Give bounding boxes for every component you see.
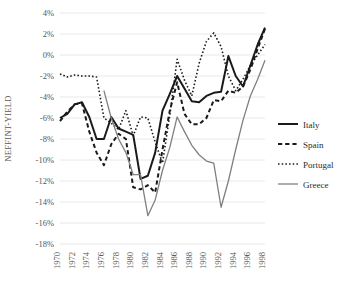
legend: ItalySpainPortugalGreece (278, 120, 334, 190)
y-tick-label: 4% (43, 8, 54, 18)
x-tick-label: 1998 (257, 252, 267, 269)
legend-label-portugal: Portugal (303, 160, 334, 170)
y-tick-label: -2% (40, 71, 54, 81)
y-tick-label: -6% (40, 113, 54, 123)
x-tick-label: 1988 (184, 252, 194, 269)
x-tick-label: 1984 (155, 251, 165, 269)
x-tick-label: 1970 (52, 252, 62, 269)
legend-label-spain: Spain (303, 140, 324, 150)
series-group (60, 28, 265, 216)
x-tick-label: 1974 (81, 251, 91, 269)
y-tick-label: -16% (36, 218, 54, 228)
y-tick-label: -18% (36, 239, 54, 249)
x-tick-label: 1980 (125, 252, 135, 269)
series-line-portugal (60, 33, 265, 163)
x-tick-label: 1978 (111, 252, 121, 269)
y-axis-ticks: 4%2%0%-2%-4%-6%-8%-10%-12%-14%-16%-18% (36, 8, 54, 249)
x-tick-label: 1990 (198, 252, 208, 269)
y-tick-label: -10% (36, 155, 54, 165)
legend-label-greece: Greece (303, 180, 328, 190)
y-tick-label: -14% (36, 197, 54, 207)
y-tick-label: -12% (36, 176, 54, 186)
y-tick-label: 2% (43, 29, 54, 39)
x-tick-label: 1972 (67, 252, 77, 269)
line-chart: 4%2%0%-2%-4%-6%-8%-10%-12%-14%-16%-18%19… (0, 0, 352, 295)
y-tick-label: 0% (43, 50, 54, 60)
x-axis-ticks: 1970197219741976197819801982198419861988… (52, 251, 267, 269)
x-tick-label: 1986 (169, 252, 179, 269)
x-tick-label: 1996 (242, 252, 252, 269)
chart-container: 4%2%0%-2%-4%-6%-8%-10%-12%-14%-16%-18%19… (0, 0, 352, 295)
x-tick-label: 1976 (96, 252, 106, 269)
x-tick-label: 1994 (228, 251, 238, 269)
x-tick-label: 1982 (140, 252, 150, 269)
gridlines (60, 13, 265, 244)
legend-label-italy: Italy (303, 120, 320, 130)
x-tick-label: 1992 (213, 252, 223, 269)
y-tick-label: -4% (40, 92, 54, 102)
y-axis-title: NEFFINT-YIELD (3, 95, 13, 161)
y-tick-label: -8% (40, 134, 54, 144)
